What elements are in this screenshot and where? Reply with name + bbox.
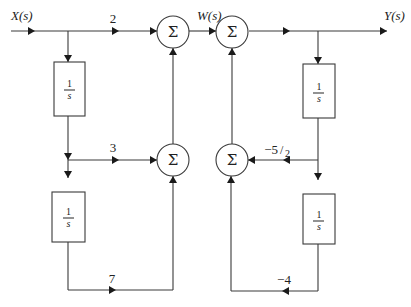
- arrow-icon: [169, 48, 177, 55]
- svg-text:/: /: [280, 143, 284, 157]
- arrow-icon: [64, 153, 72, 160]
- arrow-icon: [228, 48, 236, 55]
- svg-text:1: 1: [66, 206, 71, 217]
- arrow-icon: [248, 156, 255, 164]
- arrow-icon: [169, 176, 177, 183]
- input-signal-label: X(s): [10, 8, 33, 23]
- gain-label-neg-5-over-2: −5 / 2: [264, 142, 290, 159]
- sum-junction-bottom-left: Σ: [157, 144, 189, 176]
- svg-text:s: s: [317, 221, 321, 232]
- arrow-icon: [150, 156, 157, 164]
- sum-junction-bottom-right: Σ: [216, 144, 248, 176]
- arrow-icon: [314, 173, 322, 180]
- arrow-icon: [64, 55, 72, 62]
- arrow-icon: [112, 27, 119, 35]
- output-signal-label: Y(s): [384, 8, 405, 23]
- svg-text:s: s: [67, 218, 71, 229]
- svg-text:−5: −5: [264, 142, 278, 157]
- arrow-icon: [150, 27, 157, 35]
- arrow-icon: [283, 27, 290, 35]
- sum-junction-top-left: Σ: [157, 16, 189, 48]
- gain-label-7: 7: [109, 271, 116, 286]
- arrow-icon: [282, 287, 289, 295]
- intermediate-signal-label: W(s): [197, 8, 222, 23]
- sigma-symbol: Σ: [227, 151, 238, 169]
- sigma-symbol: Σ: [168, 151, 179, 169]
- arrow-icon: [109, 286, 116, 294]
- arrow-icon: [209, 27, 216, 35]
- svg-text:1: 1: [67, 78, 72, 89]
- arrow-icon: [64, 171, 72, 178]
- integrator-block-right-top: 1 s: [303, 64, 335, 118]
- gain-label-2: 2: [110, 11, 117, 26]
- integrator-block-left-top: 1 s: [54, 62, 85, 116]
- svg-text:s: s: [68, 90, 72, 101]
- integrator-block-left-bottom: 1 s: [52, 192, 85, 242]
- arrow-icon: [380, 27, 387, 35]
- svg-text:1: 1: [317, 81, 322, 92]
- arrow-icon: [28, 27, 35, 35]
- gain-label-3: 3: [110, 140, 117, 155]
- arrow-icon: [112, 156, 119, 164]
- integrator-block-right-bottom: 1 s: [303, 194, 335, 244]
- arrow-icon: [314, 57, 322, 64]
- arrow-icon: [227, 176, 235, 183]
- svg-text:2: 2: [285, 148, 290, 159]
- svg-text:1: 1: [317, 209, 322, 220]
- svg-text:s: s: [317, 93, 321, 104]
- gain-label-neg-4: −4: [277, 272, 291, 287]
- block-diagram: Σ Σ Σ Σ 1 s 1 s 1 s 1 s X(s) W(s) Y(s): [0, 0, 411, 307]
- sigma-symbol: Σ: [227, 23, 238, 41]
- sigma-symbol: Σ: [168, 23, 179, 41]
